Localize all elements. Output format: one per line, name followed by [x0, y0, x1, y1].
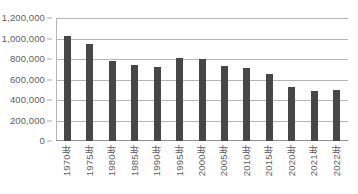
- bar: [199, 59, 206, 142]
- y-axis: 0200,000400,000600,000800,0001,000,0001,…: [0, 0, 52, 194]
- y-tick-mark: [47, 79, 52, 80]
- bar: [154, 67, 161, 141]
- x-tick-label: 2021年: [309, 144, 319, 176]
- x-tick-label: 2000年: [197, 144, 207, 176]
- bar: [311, 91, 318, 141]
- bar-series: [56, 18, 348, 141]
- bar: [333, 90, 340, 141]
- x-tick-label: 1975年: [85, 144, 95, 176]
- x-tick-label: 2010年: [242, 144, 252, 176]
- y-tick-mark: [47, 100, 52, 101]
- y-tick-mark: [47, 120, 52, 121]
- bar: [64, 36, 71, 141]
- bar: [86, 44, 93, 141]
- x-tick-label: 1985年: [130, 144, 140, 176]
- x-tick-label: 2022年: [332, 144, 342, 176]
- bar: [109, 61, 116, 141]
- y-tick-label: 800,000: [10, 54, 45, 64]
- bar: [176, 58, 183, 141]
- plot-area: [56, 18, 348, 141]
- y-tick-label: 400,000: [10, 95, 45, 105]
- y-tick-label: 1,200,000: [2, 13, 45, 23]
- bar: [288, 87, 295, 141]
- x-tick-label: 1980年: [107, 144, 117, 176]
- x-tick-label: 2015年: [264, 144, 274, 176]
- y-tick-mark: [47, 141, 52, 142]
- x-axis: 1970年1975年1980年1985年1990年1995年2000年2005年…: [56, 143, 348, 194]
- bar-chart: 0200,000400,000600,000800,0001,000,0001,…: [0, 0, 358, 194]
- bar: [266, 74, 273, 141]
- y-tick-label: 200,000: [10, 116, 45, 126]
- x-tick-label: 2005年: [219, 144, 229, 176]
- x-tick-label: 1995年: [175, 144, 185, 176]
- bar: [243, 68, 250, 141]
- y-tick-label: 0: [40, 136, 45, 146]
- y-tick-mark: [47, 38, 52, 39]
- y-tick-label: 1,000,000: [2, 34, 45, 44]
- y-tick-mark: [47, 18, 52, 19]
- x-tick-label: 1990年: [152, 144, 162, 176]
- y-tick-label: 600,000: [10, 75, 45, 85]
- bar: [221, 66, 228, 141]
- x-tick-label: 1970年: [62, 144, 72, 176]
- x-tick-label: 2020年: [287, 144, 297, 176]
- bar: [131, 65, 138, 141]
- y-tick-mark: [47, 59, 52, 60]
